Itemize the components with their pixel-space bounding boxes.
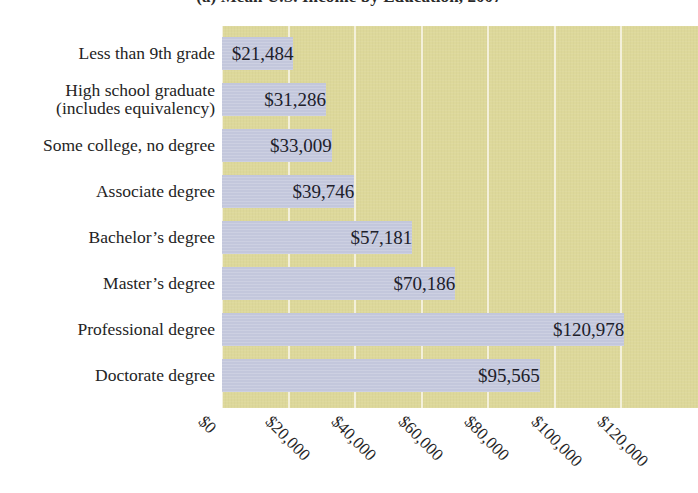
category-label-line1: Associate degree (0, 182, 215, 200)
x-tick-label: $80,000 (460, 412, 513, 465)
x-tick-label: $20,000 (260, 412, 313, 465)
category-label-line1: High school graduate (0, 81, 215, 99)
category-label: Professional degree (0, 320, 215, 338)
gridline-2 (354, 26, 356, 408)
gridline-4 (487, 26, 489, 408)
category-label-line1: Less than 9th grade (0, 44, 215, 62)
gridline-5 (554, 26, 556, 408)
category-label: Less than 9th grade (0, 44, 215, 62)
category-label: Some college, no degree (0, 136, 215, 154)
category-label-line1: Master’s degree (0, 274, 215, 292)
x-tick-label: $120,000 (593, 412, 652, 471)
category-label: Bachelor’s degree (0, 228, 215, 246)
category-label: Doctorate degree (0, 366, 215, 384)
bar-value-label: $120,978 (222, 313, 631, 346)
chart-title-text: (a) Mean U.S. Income by Education, 2007 (196, 0, 502, 6)
category-label: Associate degree (0, 182, 215, 200)
gridline-6 (620, 26, 622, 408)
category-label-line1: Doctorate degree (0, 366, 215, 384)
category-label-line1: Some college, no degree (0, 136, 215, 154)
bar-value-label: $31,286 (222, 83, 333, 116)
gridline-3 (421, 26, 423, 408)
x-tick-label: $40,000 (327, 412, 380, 465)
category-label: Master’s degree (0, 274, 215, 292)
category-label-line1: Bachelor’s degree (0, 228, 215, 246)
x-tick-label: $60,000 (393, 412, 446, 465)
category-label-line2: (includes equivalency) (0, 99, 215, 117)
bar-value-label: $39,746 (222, 175, 361, 208)
category-label: High school graduate(includes equivalenc… (0, 81, 215, 117)
bar-value-label: $57,181 (222, 221, 419, 254)
plot-area: $21,484$31,286$33,009$39,746$57,181$70,1… (222, 26, 698, 408)
x-tick-label: $0 (194, 412, 220, 438)
chart-title: (a) Mean U.S. Income by Education, 2007 (0, 0, 698, 7)
bar-value-label: $95,565 (222, 359, 547, 392)
bar-value-label: $33,009 (222, 129, 339, 162)
bar-value-label: $70,186 (222, 267, 462, 300)
x-tick-label: $100,000 (526, 412, 585, 471)
bar-value-label: $21,484 (222, 37, 300, 70)
category-label-line1: Professional degree (0, 320, 215, 338)
